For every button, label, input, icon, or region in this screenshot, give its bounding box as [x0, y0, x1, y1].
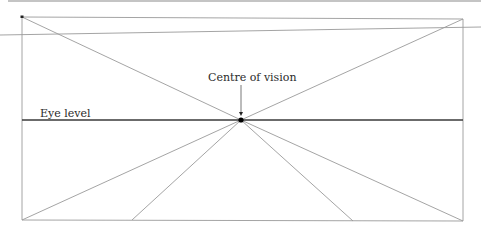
frame-top	[22, 17, 463, 19]
arrow-head-icon	[239, 112, 243, 116]
ground-line-1	[22, 120, 241, 220]
ground-line-4	[241, 120, 463, 221]
diagonal-top-right	[241, 19, 463, 120]
tilted-line	[0, 27, 481, 35]
centre-of-vision-label: Centre of vision	[208, 72, 297, 83]
centre-point	[238, 117, 243, 122]
eye-level-label: Eye level	[40, 108, 91, 119]
ground-line-3	[241, 120, 353, 221]
ground-line-2	[132, 120, 241, 220]
frame-bottom	[22, 220, 463, 221]
corner-marker	[21, 16, 24, 19]
